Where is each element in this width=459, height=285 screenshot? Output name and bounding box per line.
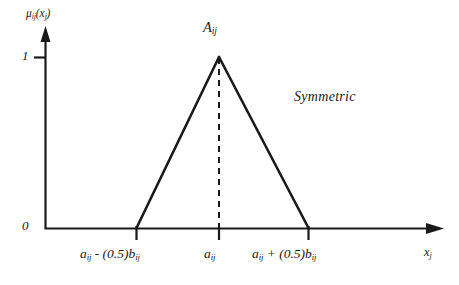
figure-canvas bbox=[0, 0, 459, 285]
y-tick-label-one: 1 bbox=[22, 49, 29, 62]
x-tick-label-right: aij + (0.5)bij bbox=[252, 247, 316, 262]
apex-label-sub: ij bbox=[212, 25, 217, 36]
membership-right-edge bbox=[219, 57, 309, 228]
x-tick-label-right-b-sub: ij bbox=[312, 252, 317, 262]
x-tick-label-left-op: - (0.5) bbox=[91, 246, 128, 261]
x-tick-label-left-a: a bbox=[80, 246, 87, 261]
y-tick-label-zero: 0 bbox=[22, 219, 29, 232]
membership-left-edge bbox=[137, 57, 220, 228]
x-tick-label-center: aij bbox=[204, 247, 215, 262]
x-axis-arrowhead bbox=[426, 223, 444, 234]
symmetric-annotation: Symmetric bbox=[294, 90, 356, 104]
x-tick-label-center-a: a bbox=[204, 246, 211, 261]
y-axis-label-paren-open: (x bbox=[36, 7, 45, 19]
x-tick-label-right-op: + (0.5) bbox=[263, 246, 305, 261]
x-axis-label: xj bbox=[424, 246, 432, 260]
x-tick-label-left: aij - (0.5)bij bbox=[80, 247, 140, 262]
apex-label: Aij bbox=[203, 20, 217, 36]
y-axis-label: μij(xj) bbox=[26, 8, 50, 20]
x-axis-label-sub: j bbox=[430, 251, 432, 260]
y-axis-arrowhead bbox=[41, 26, 51, 42]
fuzzy-membership-figure: μij(xj) 1 0 Aij Symmetric aij - (0.5)bij… bbox=[0, 0, 459, 285]
y-axis-label-paren-close: ) bbox=[47, 7, 51, 19]
x-tick-label-left-b-sub: ij bbox=[135, 252, 140, 262]
x-tick-label-center-a-sub: ij bbox=[211, 252, 216, 262]
apex-label-base: A bbox=[203, 19, 212, 35]
x-tick-label-right-b: b bbox=[305, 246, 312, 261]
x-tick-label-right-a: a bbox=[252, 246, 259, 261]
